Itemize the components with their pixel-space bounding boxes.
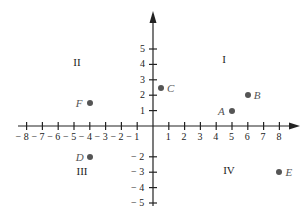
x-tick-label: − 4 [79,132,92,142]
x-tick-label: − 2 [110,132,123,142]
x-tick-label: − 5 [63,132,76,142]
point-a-label: A [218,105,225,116]
x-tick-label: 5 [229,132,234,142]
y-tick-label: 5 [140,44,145,54]
axes-svg [0,0,308,213]
point-f-marker [87,100,93,106]
x-tick-label: − 6 [47,132,60,142]
x-tick-label: 6 [245,132,250,142]
x-tick-label: 8 [276,132,281,142]
quadrant-label-iii: III [77,166,88,177]
y-tick-label: − 2 [131,152,144,162]
x-tick-label: − 3 [95,132,108,142]
y-tick-label: 2 [140,90,145,100]
y-tick-label: − 4 [131,183,144,193]
x-axis-arrow-icon [289,123,300,130]
x-tick-label: 3 [197,132,202,142]
x-tick-label: 7 [261,132,266,142]
y-tick-label: − 3 [131,167,144,177]
point-f-label: F [76,97,83,108]
point-b-marker [245,92,251,98]
point-a-marker [229,108,235,114]
y-tick-label: 4 [140,59,145,69]
y-tick-label: − 5 [131,198,144,208]
axes [18,11,300,206]
point-c-label: C [167,82,174,93]
x-tick-label: − 8 [16,132,29,142]
x-tick-label: 1 [166,132,171,142]
y-tick-label: 3 [140,75,145,85]
point-e-label: E [285,167,292,178]
coordinate-plane: I II III IV − 8− 7− 6− 5− 4− 3− 2− 11234… [0,0,308,213]
x-tick-label: − 1 [126,132,139,142]
quadrant-label-iv: IV [223,165,235,176]
x-tick-label: 2 [182,132,187,142]
quadrant-label-ii: II [73,57,80,68]
point-b-label: B [254,90,261,101]
point-d-label: D [76,151,84,162]
x-tick-label: − 7 [31,132,44,142]
point-c-marker [158,85,164,91]
x-tick-label: 4 [213,132,218,142]
point-e-marker [276,169,282,175]
y-axis-arrow-icon [150,11,157,23]
point-d-marker [87,154,93,160]
y-tick-label: 1 [140,106,145,116]
quadrant-label-i: I [222,54,226,65]
